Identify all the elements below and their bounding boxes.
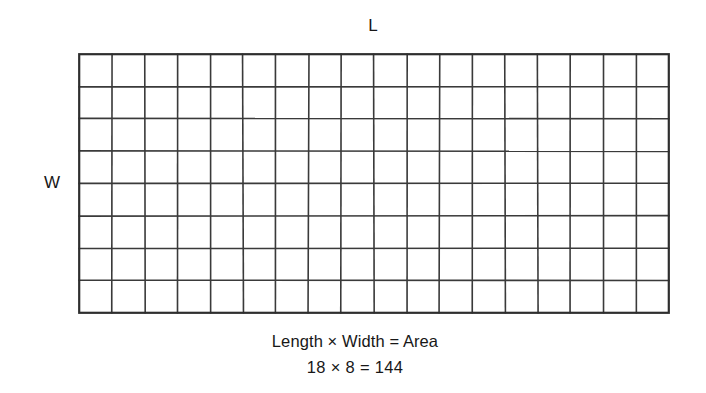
grid-row-line: [79, 151, 669, 152]
grid-lines: [79, 54, 669, 313]
length-axis-label: L: [0, 16, 706, 36]
area-grid-svg: [78, 53, 670, 314]
area-grid: [78, 53, 670, 314]
caption-formula: Length × Width = Area: [2, 330, 706, 353]
caption-computation: 18 × 8 = 144: [2, 356, 706, 379]
caption-block: Length × Width = Area 18 × 8 = 144: [0, 330, 706, 379]
length-axis-label-text: L: [368, 16, 378, 35]
area-model-figure: L W Length × Width = Area 18 × 8 = 144: [0, 0, 706, 393]
width-axis-label: W: [44, 173, 60, 193]
